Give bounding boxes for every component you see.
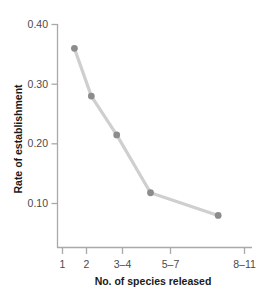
x-axis-title: No. of species released [95, 275, 212, 287]
data-point [215, 212, 222, 219]
y-axis-title: Rate of establishment [12, 84, 24, 194]
y-tick-label-4: 0.40 [28, 18, 49, 30]
data-point [113, 131, 120, 138]
x-tick-label-3: 3–4 [114, 258, 132, 270]
data-point [147, 189, 154, 196]
data-point [71, 45, 78, 52]
chart-figure: 0.40 0.30 0.20 0.10 1 2 3–4 5–7 8–11 No.… [0, 0, 270, 297]
x-tick-label-1: 1 [60, 258, 66, 270]
x-tick-label-2: 2 [84, 258, 90, 270]
data-point [88, 93, 95, 100]
x-tick-label-4: 5–7 [162, 258, 180, 270]
x-tick-label-5: 8–11 [233, 258, 256, 270]
y-tick-label-1: 0.10 [28, 197, 49, 209]
line-chart: 0.40 0.30 0.20 0.10 1 2 3–4 5–7 8–11 No.… [0, 0, 270, 297]
y-tick-label-3: 0.30 [28, 78, 49, 90]
y-tick-label-2: 0.20 [28, 137, 49, 149]
